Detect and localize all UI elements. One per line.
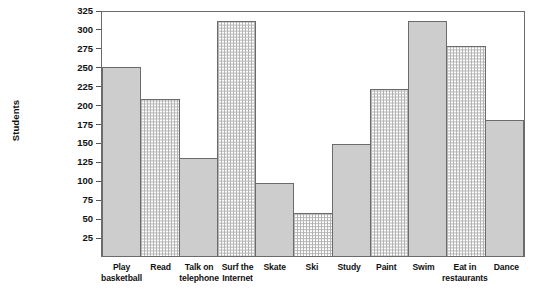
x-axis-label: Study (330, 259, 367, 293)
x-axis-label: Eat in restaurants (442, 259, 488, 293)
y-axis-tick: 75 (82, 194, 101, 206)
x-axis-label: Paint (368, 259, 405, 293)
plot-area (101, 11, 525, 257)
y-axis-tick-label: 250 (77, 62, 96, 74)
bar (485, 120, 524, 256)
y-axis-tick: 200 (77, 100, 101, 112)
x-axis-label: Play basketball (101, 259, 142, 293)
y-axis-tick: 175 (77, 119, 101, 131)
y-axis-tick: 50 (82, 213, 101, 225)
y-axis-tick-label: 300 (77, 24, 96, 36)
y-axis-tick-label: 100 (77, 175, 96, 187)
y-axis-tick: 300 (77, 24, 101, 36)
y-axis-tick-label: 25 (82, 232, 96, 244)
y-axis-tick-label: 325 (77, 5, 96, 17)
bar (140, 99, 179, 256)
bar (179, 158, 218, 256)
y-axis-tick-label: 200 (77, 100, 96, 112)
bar (293, 213, 332, 256)
bar (255, 183, 294, 256)
y-axis-tick-label: 175 (77, 119, 96, 131)
x-axis-labels: Play basketballReadTalk on telephoneSurf… (101, 259, 525, 293)
y-axis: 325300275250225200175150125100755025 (0, 0, 101, 293)
x-axis-label: Skate (256, 259, 293, 293)
y-axis-tick: 250 (77, 62, 101, 74)
x-axis-label: Ski (293, 259, 330, 293)
y-axis-tick: 150 (77, 137, 101, 149)
x-axis-label: Swim (405, 259, 442, 293)
y-axis-tick-label: 75 (82, 194, 96, 206)
y-axis-tick: 125 (77, 156, 101, 168)
y-axis-tick-label: 225 (77, 81, 96, 93)
y-axis-tick: 100 (77, 175, 101, 187)
y-axis-tick: 25 (82, 232, 101, 244)
y-axis-tick: 275 (77, 43, 101, 55)
bar (370, 89, 409, 256)
bar (102, 67, 141, 256)
bar (217, 21, 256, 256)
bar (408, 21, 447, 256)
bar (332, 144, 371, 256)
y-axis-tick: 325 (77, 5, 101, 17)
x-axis-label: Surf the Internet (219, 259, 256, 293)
x-axis-label: Dance (488, 259, 525, 293)
bar-chart: Students 3253002752502252001751501251007… (0, 0, 541, 293)
bar-series (102, 12, 524, 256)
y-axis-tick-label: 275 (77, 43, 96, 55)
bar (446, 46, 485, 256)
y-axis-tick: 225 (77, 81, 101, 93)
y-axis-tick-label: 50 (82, 213, 96, 225)
y-axis-tick-label: 150 (77, 137, 96, 149)
x-axis-label: Talk on telephone (179, 259, 219, 293)
y-axis-tick-label: 125 (77, 156, 96, 168)
x-axis-label: Read (142, 259, 179, 293)
